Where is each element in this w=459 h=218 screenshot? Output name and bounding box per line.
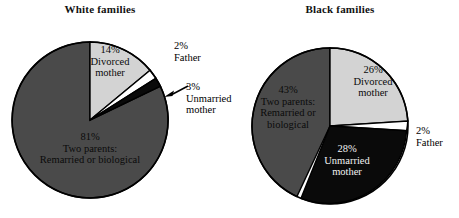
pie-label-name-line2: Remarried or <box>260 107 316 118</box>
pie-label-name-line2: mother <box>186 104 216 115</box>
pie-label-name-line1: Divorced <box>353 76 392 87</box>
pie-label-value: 26% <box>363 64 382 75</box>
pie-chart-figure: White families Black families 14% Divorc… <box>0 0 459 218</box>
pie-label-white-father: 2% Father <box>174 40 220 63</box>
chart-title-black-families: Black families <box>278 3 402 15</box>
pie-label-name-line1: Father <box>174 52 201 63</box>
pie-label-black-father: 2% Father <box>416 125 458 148</box>
chart-title-white-families: White families <box>38 3 162 15</box>
pie-label-name-line2: Remarried or biological <box>40 154 140 165</box>
pie-label-name-line1: Unmarried <box>324 155 369 166</box>
pie-label-name-line1: Father <box>416 137 443 148</box>
pie-label-name-line3: biological <box>267 119 309 130</box>
pie-label-name-line2: mother <box>332 166 362 177</box>
pie-label-black-two-parents: 43% Two parents: Remarried or biological <box>245 84 331 130</box>
pie-label-white-two-parents: 81% Two parents: Remarried or biological <box>8 131 172 166</box>
pie-label-value: 43% <box>278 84 297 95</box>
pie-label-name-line1: Two parents: <box>63 143 117 154</box>
pie-label-name-line1: Unmarried <box>186 93 231 104</box>
pie-label-name-line2: mother <box>95 67 125 78</box>
pie-label-value: 81% <box>80 131 99 142</box>
pie-label-value: 2% <box>416 125 430 136</box>
pie-label-value: 3% <box>186 81 200 92</box>
pie-label-value: 28% <box>337 143 356 154</box>
pie-label-black-divorced-mother: 26% Divorced mother <box>340 64 406 99</box>
pie-label-white-divorced-mother: 14% Divorced mother <box>79 44 141 79</box>
pie-label-name-line1: Divorced <box>90 56 129 67</box>
pie-label-name-line2: mother <box>358 87 388 98</box>
pie-label-value: 2% <box>174 40 188 51</box>
pie-label-black-unmarried-mother: 28% Unmarried mother <box>310 143 384 178</box>
pie-label-name-line1: Two parents: <box>261 96 315 107</box>
pie-label-value: 14% <box>100 44 119 55</box>
